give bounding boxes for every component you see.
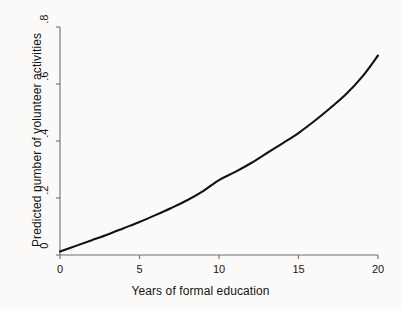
x-tick-label: 20 (358, 264, 398, 275)
x-tick-label: 5 (120, 264, 160, 275)
data-series-line (60, 56, 378, 252)
x-tick-label: 10 (199, 264, 239, 275)
figure-container: 0.2.4.6.8 05101520 Years of formal educa… (0, 0, 401, 311)
y-axis-ticks (56, 27, 60, 255)
x-tick-label: 0 (40, 264, 80, 275)
x-axis-ticks (60, 255, 378, 259)
x-axis-title: Years of formal education (0, 284, 401, 298)
x-tick-label: 15 (279, 264, 319, 275)
plot-area: 0.2.4.6.8 05101520 (0, 0, 401, 311)
y-axis-title: Predicted number of volunteer activities (30, 15, 44, 265)
